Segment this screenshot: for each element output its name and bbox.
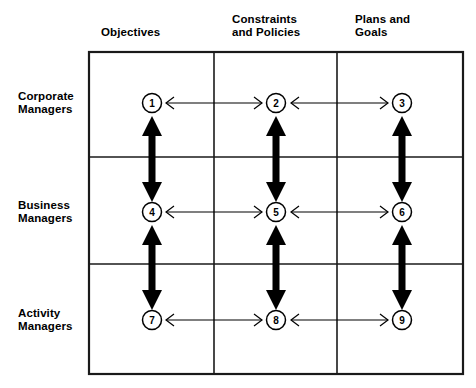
node-1-label: 1 (149, 98, 155, 109)
vertical-connector-5-8 (266, 225, 286, 310)
horizontal-connector-2-3 (291, 97, 388, 109)
vertical-connector-6-9 (392, 225, 412, 310)
column-header-plans-and-goals: Plans and Goals (355, 13, 414, 38)
node-9-label: 9 (399, 315, 405, 326)
node-6-label: 6 (399, 207, 405, 218)
row-label-business-managers: Business Managers (18, 199, 73, 224)
node-2-label: 2 (273, 98, 279, 109)
node-8-label: 8 (273, 315, 279, 326)
planning-matrix-diagram: Objectives Constraints and Policies Plan… (0, 0, 476, 388)
horizontal-connector-5-6 (291, 206, 388, 218)
row-labels: Corporate Managers Business Managers Act… (18, 90, 77, 332)
vertical-connector-2-5 (266, 116, 286, 202)
node-4[interactable]: 4 (143, 203, 162, 222)
node-4-label: 4 (149, 207, 155, 218)
node-3-label: 3 (399, 98, 405, 109)
node-7[interactable]: 7 (143, 311, 162, 330)
node-9[interactable]: 9 (393, 311, 412, 330)
vertical-connector-1-4 (142, 116, 162, 202)
node-8[interactable]: 8 (267, 311, 286, 330)
node-5[interactable]: 5 (267, 203, 286, 222)
node-6[interactable]: 6 (393, 203, 412, 222)
row-label-activity-managers: Activity Managers (18, 307, 73, 332)
horizontal-connector-8-9 (291, 314, 388, 326)
matrix-canvas: Objectives Constraints and Policies Plan… (0, 0, 476, 388)
row-label-corporate-managers: Corporate Managers (18, 90, 77, 115)
node-1[interactable]: 1 (143, 94, 162, 113)
column-header-constraints-and-policies: Constraints and Policies (232, 13, 300, 38)
column-headers: Objectives Constraints and Policies Plan… (101, 13, 414, 38)
node-7-label: 7 (149, 315, 155, 326)
vertical-connector-4-7 (142, 225, 162, 310)
vertical-connector-3-6 (392, 116, 412, 202)
node-5-label: 5 (273, 207, 279, 218)
node-2[interactable]: 2 (267, 94, 286, 113)
node-3[interactable]: 3 (393, 94, 412, 113)
column-header-objectives: Objectives (101, 26, 160, 38)
